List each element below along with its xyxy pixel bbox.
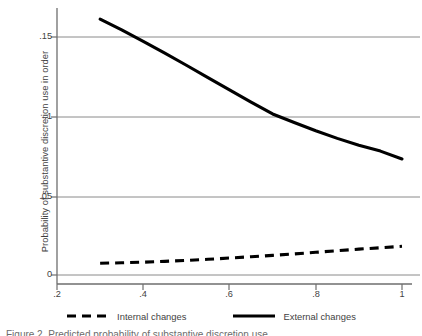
legend-label-external-changes: External changes: [283, 311, 355, 322]
x-tick-label-0: .2: [42, 289, 72, 299]
x-tick-label-4: 1: [387, 289, 417, 299]
legend-entry-internal-changes[interactable]: Internal changes: [66, 311, 186, 322]
y-axis-title: Probability of substantive discretion us…: [39, 12, 50, 292]
gridlines: [57, 37, 420, 275]
y-tick-label-2: .1: [44, 111, 52, 121]
y-axis: [51, 8, 57, 284]
series-line-internal-changes: [100, 246, 402, 263]
legend-entry-external-changes[interactable]: External changes: [232, 311, 355, 322]
figure-caption: Figure 2. Predicted probability of subst…: [6, 329, 422, 336]
legend: Internal changes External changes: [0, 305, 422, 327]
series-line-external-changes: [100, 19, 402, 159]
plot-area: [0, 0, 422, 300]
x-tick-label-2: .6: [214, 289, 244, 299]
x-tick-label-1: .4: [128, 289, 158, 299]
solid-line-key-icon: [232, 311, 276, 321]
dashed-line-key-icon: [66, 311, 110, 321]
y-tick-label-0: 0: [47, 269, 52, 279]
x-tick-label-3: .8: [301, 289, 331, 299]
y-tick-label-3: .15: [39, 31, 52, 41]
legend-label-internal-changes: Internal changes: [117, 311, 186, 322]
y-tick-label-1: .05: [39, 191, 52, 201]
figure-container: Probability of substantive discretion us…: [0, 0, 422, 336]
